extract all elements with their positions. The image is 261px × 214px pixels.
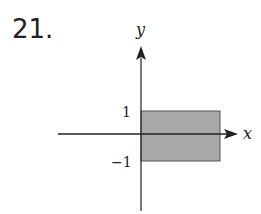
shaded-region: [141, 111, 220, 161]
y-tick-1: 1: [122, 104, 131, 120]
y-axis-label: y: [135, 20, 146, 39]
region-diagram: x y 1 −1: [0, 0, 261, 214]
y-tick-neg1: −1: [111, 154, 132, 170]
y-axis-arrow-icon: [136, 46, 146, 60]
x-axis-label: x: [243, 124, 252, 143]
